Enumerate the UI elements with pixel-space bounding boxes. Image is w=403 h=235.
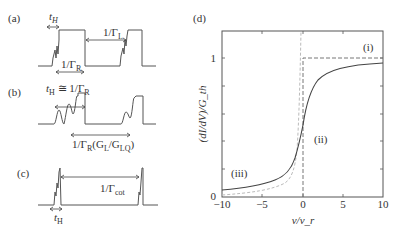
period-label-b: 1/ΓR(GL/GLQ) [72, 138, 134, 153]
annotation-iii: (iii) [231, 167, 248, 180]
tH-label-c: tH [54, 211, 63, 226]
panel-d-label: (d) [193, 12, 206, 25]
panel-c: (c) 1/Γcot tH [17, 167, 158, 226]
annotation-i: (i) [363, 41, 374, 54]
y-axis-label: (dI/dV)/G_th [196, 85, 209, 142]
gammaCot-label: 1/Γcot [100, 182, 125, 197]
ytick-label: 0 [211, 190, 217, 202]
gammaR-label: 1/ΓR [61, 58, 82, 73]
panel-c-label: (c) [17, 167, 30, 180]
panel-b-label: (b) [8, 86, 21, 99]
tH-eq-label: tH ≅ 1/ΓR [46, 82, 90, 97]
series-i-step-dashed [303, 58, 383, 197]
panel-a-trace [38, 30, 156, 66]
xtick-label: −10 [213, 198, 231, 210]
panel-a: (a) tH 1/ΓL 1/ΓR [8, 10, 156, 74]
panel-b: (b) tH ≅ 1/ΓR 1/ΓR(GL/GLQ) [8, 82, 156, 153]
panel-c-trace [38, 168, 158, 205]
xtick-label: −5 [256, 198, 268, 210]
figure: (a) tH 1/ΓL 1/ΓR (b) tH ≅ 1/ΓR 1/ΓR(GL/G… [0, 0, 403, 235]
ytick-label: 1 [211, 52, 217, 64]
tH-label: tH [49, 10, 59, 25]
x-axis-label: ν/ν_r [292, 214, 315, 226]
panel-a-label: (a) [8, 12, 21, 25]
xtick-label: 10 [378, 198, 390, 210]
panel-b-trace [38, 93, 156, 124]
xtick-label: 0 [300, 198, 306, 210]
gammaL-label: 1/ΓL [103, 26, 123, 41]
panel-d: (d) −10 −5 0 5 10 0 1 ν/ν_r (dI/dV)/G_th [193, 12, 389, 226]
annotation-ii: (ii) [314, 133, 328, 146]
xtick-label: 5 [340, 198, 346, 210]
